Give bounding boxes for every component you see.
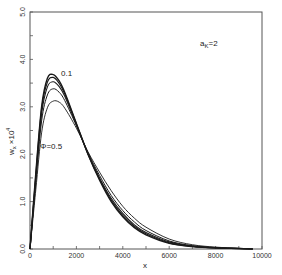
curve-Φ=0.1 [30, 74, 253, 249]
plot-frame [30, 12, 262, 249]
x-axis-label: x [143, 261, 147, 270]
y-tick-label: 4.0 [19, 54, 26, 64]
curve-Φ=0.2 [30, 77, 253, 249]
x-tick-label: 4000 [115, 252, 131, 259]
x-tick-label: 6000 [161, 252, 177, 259]
y-tick-label: 5.0 [19, 7, 26, 17]
axis-ticks [30, 12, 262, 249]
y-tick-label: 0.0 [19, 244, 26, 254]
y-tick-label: 2.0 [19, 149, 26, 159]
y-axis-label: wx×104 [5, 128, 17, 156]
curve-Φ=0.5 [30, 101, 253, 249]
chart: 0200040006000800010000 0.01.02.03.04.05.… [0, 0, 282, 275]
x-tick-labels: 0200040006000800010000 [28, 252, 272, 259]
x-tick-label: 8000 [208, 252, 224, 259]
curve-label-top: 0.1 [61, 69, 73, 78]
curve-Φ=0.4 [30, 89, 253, 249]
x-tick-label: 0 [28, 252, 32, 259]
y-tick-label: 3.0 [19, 102, 26, 112]
x-tick-label: 10000 [252, 252, 272, 259]
curve-label-bottom: Φ=0.5 [40, 142, 63, 151]
y-tick-labels: 0.01.02.03.04.05.0 [19, 7, 26, 254]
parameter-annotation: aK=2 [200, 39, 218, 49]
x-tick-label: 2000 [69, 252, 85, 259]
y-tick-label: 1.0 [19, 197, 26, 207]
data-curves [30, 74, 253, 249]
